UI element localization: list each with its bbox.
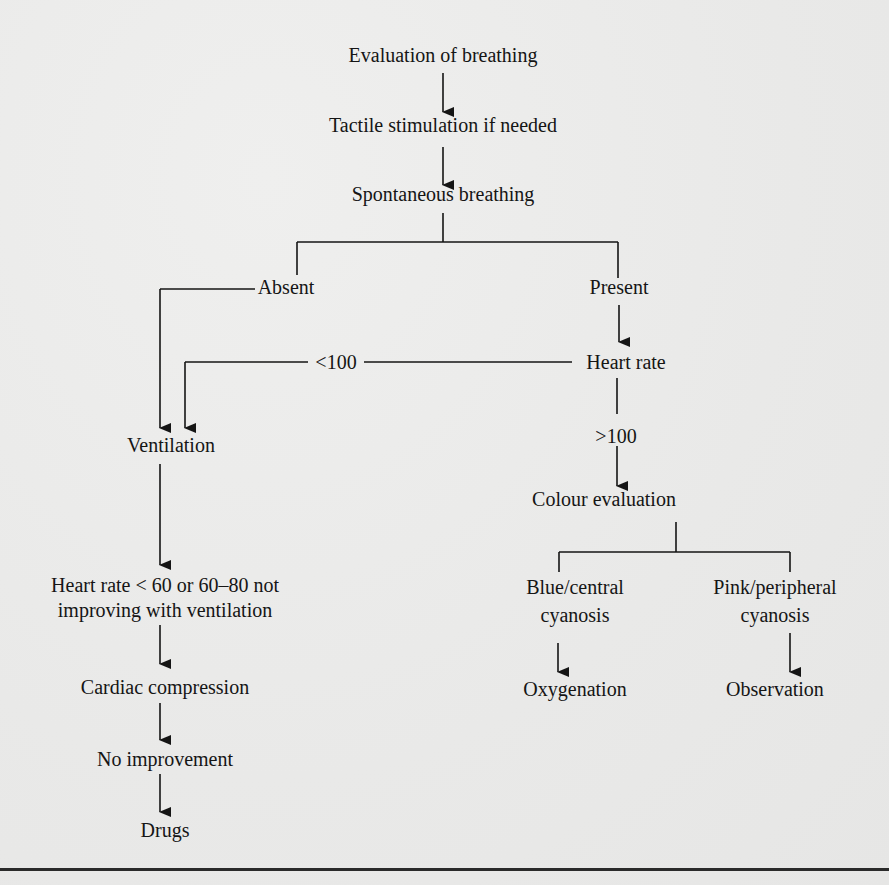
- node-hr-low-line1: Heart rate < 60 or 60–80 not: [51, 573, 279, 597]
- node-present: Present: [590, 275, 649, 299]
- node-heart-rate-gt100: >100: [595, 424, 636, 448]
- bottom-rule-divider: [0, 868, 889, 871]
- node-no-improvement: No improvement: [97, 747, 233, 771]
- node-ventilation: Ventilation: [127, 433, 215, 457]
- node-cardiac-compression: Cardiac compression: [81, 675, 249, 699]
- node-absent: Absent: [258, 275, 315, 299]
- node-pink-peripheral-line1: Pink/peripheral: [713, 575, 836, 599]
- node-blue-central-line1: Blue/central: [526, 575, 624, 599]
- node-pink-peripheral-line2: cyanosis: [741, 603, 810, 627]
- node-hr-low-line2: improving with ventilation: [58, 598, 272, 622]
- node-observation: Observation: [726, 677, 824, 701]
- node-heart-rate-lt100: <100: [315, 350, 356, 374]
- node-evaluation-of-breathing: Evaluation of breathing: [349, 43, 538, 67]
- node-heart-rate: Heart rate: [586, 350, 665, 374]
- node-tactile-stimulation: Tactile stimulation if needed: [329, 113, 557, 137]
- node-colour-evaluation: Colour evaluation: [532, 487, 676, 511]
- node-drugs: Drugs: [141, 818, 190, 842]
- node-oxygenation: Oxygenation: [523, 677, 626, 701]
- node-blue-central-line2: cyanosis: [541, 603, 610, 627]
- node-spontaneous-breathing: Spontaneous breathing: [352, 182, 535, 206]
